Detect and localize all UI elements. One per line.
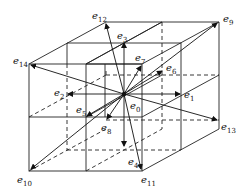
label-e1: e1 <box>184 90 194 103</box>
label-e4: e4 <box>128 157 138 170</box>
label-e8: e8 <box>101 123 111 136</box>
label-e10: e10 <box>17 175 32 188</box>
label-e14: e14 <box>13 56 28 69</box>
label-e12: e12 <box>92 11 107 24</box>
label-e5: e5 <box>76 105 86 118</box>
label-e11: e11 <box>141 175 156 188</box>
center-node <box>122 92 126 96</box>
label-e0: e0 <box>130 101 140 114</box>
lattice-diagram: e0e1e2e3e4e5e6e7e8e9e10e11e12e13e14 <box>0 0 248 190</box>
label-e2: e2 <box>54 88 64 101</box>
lattice-svg <box>0 0 248 190</box>
label-e13: e13 <box>221 122 236 135</box>
label-e6: e6 <box>166 63 176 76</box>
label-e7: e7 <box>135 53 145 66</box>
label-e9: e9 <box>223 14 233 27</box>
label-e3: e3 <box>117 31 127 44</box>
